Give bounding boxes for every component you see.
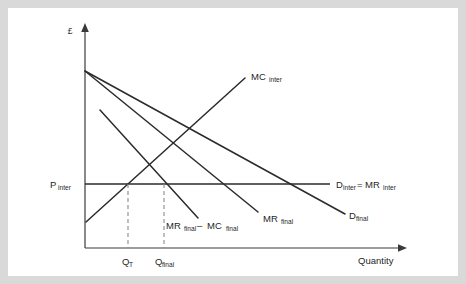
figure-panel: £ Quantity P inter Q T Q final MC inter — [8, 8, 458, 276]
d-inter-sub: inter — [343, 184, 357, 191]
x-axis-arrow-icon — [398, 244, 407, 252]
minus-operator: – — [197, 220, 203, 231]
mr-minus-main-a: MR — [166, 220, 181, 231]
label-d-final: D final — [349, 210, 369, 222]
label-d-inter-eq-mr-inter: D inter = MR inter — [336, 179, 397, 191]
q-final-sub: final — [162, 261, 175, 268]
y-axis-label: £ — [68, 26, 73, 36]
mr-minus-main-b: MC — [207, 220, 222, 231]
figure-frame: £ Quantity P inter Q T Q final MC inter — [0, 0, 466, 284]
curve-d-final — [85, 71, 345, 214]
curve-mr-final — [85, 71, 258, 212]
tick-label-q-t: Q T — [122, 256, 133, 268]
tick-label-q-final: Q final — [155, 256, 175, 268]
mr-inter-main: MR — [365, 179, 380, 190]
y-axis-arrow-icon — [81, 23, 89, 32]
mr-minus-sub-b: final — [226, 225, 239, 232]
curve-mc-inter — [86, 78, 245, 222]
x-axis-label: Quantity — [358, 255, 394, 266]
mr-inter-sub: inter — [383, 184, 397, 191]
mr-final-sub: final — [281, 218, 294, 225]
label-mr-final: MR final — [263, 213, 294, 225]
mc-inter-sub: inter — [269, 76, 283, 83]
mc-inter-main: MC — [251, 71, 266, 82]
p-inter-main: P — [50, 179, 56, 190]
economics-diagram: £ Quantity P inter Q T Q final MC inter — [8, 8, 458, 276]
d-final-main: D — [349, 210, 356, 221]
p-inter-sub: inter — [58, 184, 72, 191]
d-final-sub: final — [356, 215, 369, 222]
label-mr-final-minus-mc-final: MR final – MC final — [166, 220, 239, 232]
price-axis-label: P inter — [50, 179, 72, 191]
mr-final-main: MR — [263, 213, 278, 224]
d-inter-main: D — [336, 179, 343, 190]
mr-minus-sub-a: final — [184, 225, 197, 232]
equals-operator: = — [357, 179, 363, 190]
label-mc-inter: MC inter — [251, 71, 283, 83]
q-t-sub: T — [129, 261, 133, 268]
